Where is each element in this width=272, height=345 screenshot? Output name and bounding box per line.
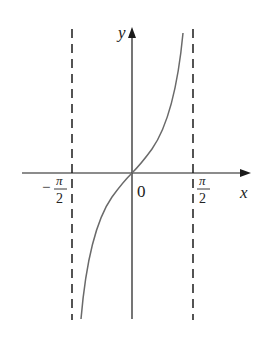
- origin-label: 0: [137, 182, 146, 201]
- tick-label-pi-over-2: π 2: [197, 173, 210, 206]
- tick-denominator: 2: [199, 191, 206, 206]
- tick-sign: −: [42, 179, 50, 195]
- y-axis-arrow-icon: [128, 27, 136, 38]
- tick-numerator: π: [56, 173, 63, 188]
- tick-label-neg-pi-over-2: − π 2: [42, 173, 67, 206]
- tangent-graph: y x 0 − π 2 π 2: [0, 0, 272, 345]
- x-axis-arrow-icon: [240, 169, 251, 177]
- x-axis-label: x: [239, 183, 248, 202]
- tick-denominator: 2: [56, 191, 63, 206]
- y-axis-label: y: [116, 23, 126, 42]
- tick-numerator: π: [199, 173, 206, 188]
